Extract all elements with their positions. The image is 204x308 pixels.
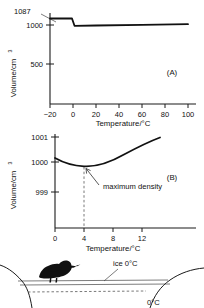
panel-b-xtick-label-8: 8 <box>111 234 115 243</box>
panel-a-y-axis-label: Volume/cm 3 <box>7 49 18 97</box>
panel-a-curve-volume <box>50 19 188 26</box>
panel-a-ytick-label-500: 500 <box>30 60 43 69</box>
ice-label-leader <box>104 269 118 281</box>
panel-b-ytick-label-1001: 1001 <box>31 133 48 142</box>
panel-b-curve-volume <box>55 138 160 167</box>
panel-a-xtick-label-60: 60 <box>138 110 146 119</box>
panel-a-annotation-1087: 1087 <box>14 7 31 16</box>
figure-water-volume-temperature: Volume/cm 3 1000 500 1087 −20 0 20 40 60… <box>0 0 204 308</box>
chart-panel-b: Volume/cm 3 1001 1000 999 0 4 8 12 Tempe… <box>7 133 196 253</box>
panel-a-xtick-label-40: 40 <box>115 110 123 119</box>
panel-a-y-axis-label-text: Volume/cm <box>9 59 18 98</box>
ice-label: ice 0°C <box>113 259 138 268</box>
panel-a-label: (A) <box>167 68 178 77</box>
panel-b-ytick-label-999: 999 <box>35 188 48 197</box>
water-temperature-label: 0°C <box>147 298 160 307</box>
ice-surface-bottom <box>20 284 170 285</box>
panel-b-xtick-label-4: 4 <box>82 234 86 243</box>
ice-surface-top <box>18 280 168 281</box>
panel-a-ytick-label-1000: 1000 <box>26 21 43 30</box>
panel-b-y-axis-label: Volume/cm 3 <box>7 161 18 209</box>
panel-b-annotation-max-density: maximum density <box>103 182 162 191</box>
panel-b-label: (B) <box>167 173 178 182</box>
panel-b-max-density-arrow <box>86 169 99 186</box>
chart-panel-a: Volume/cm 3 1000 500 1087 −20 0 20 40 60… <box>7 7 196 128</box>
panel-a-x-axis-label: Temperature/°C <box>96 119 151 128</box>
panel-b-y-axis-label-text: Volume/cm <box>9 171 18 210</box>
panel-b-y-axis-label-sup: 3 <box>7 161 13 164</box>
panel-b-xtick-label-0: 0 <box>53 234 57 243</box>
panel-a-y-axis-label-sup: 3 <box>7 49 13 52</box>
panel-a-xtick-label-0: 0 <box>71 110 75 119</box>
panel-b-x-axis-label: Temperature/°C <box>86 244 141 253</box>
bird-icon <box>39 260 80 282</box>
panel-b-ytick-label-1000: 1000 <box>31 158 48 167</box>
panel-b-xtick-label-12: 12 <box>138 234 146 243</box>
water-level-dashed <box>28 291 146 292</box>
pond-bank-left <box>0 264 32 308</box>
panel-a-xtick-label-m20: −20 <box>44 110 57 119</box>
panel-a-xtick-label-100: 100 <box>182 110 195 119</box>
panel-a-xtick-label-80: 80 <box>161 110 169 119</box>
illustration-pond-with-ice: ice 0°C 0°C <box>0 259 204 308</box>
panel-a-xtick-label-20: 20 <box>92 110 100 119</box>
